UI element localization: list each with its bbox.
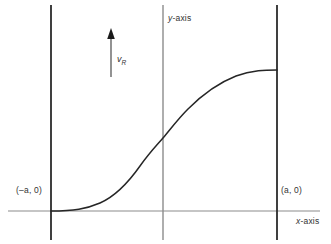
velocity-symbol-subscript: R — [122, 59, 127, 66]
velocity-profile-figure: (–a, 0) (a, 0) y-axis x-axis vR — [0, 0, 331, 244]
velocity-profile-curve — [51, 70, 277, 211]
figure-canvas — [0, 0, 331, 244]
right-intercept-label: (a, 0) — [281, 186, 302, 195]
y-axis-label: y-axis — [168, 14, 191, 23]
x-axis-label: x-axis — [296, 217, 319, 226]
x-axis-label-suffix: -axis — [300, 216, 319, 226]
y-axis-label-suffix: -axis — [172, 13, 191, 23]
velocity-arrow-icon — [107, 28, 115, 77]
velocity-symbol-label: vR — [117, 55, 126, 66]
left-intercept-label: (–a, 0) — [16, 186, 42, 195]
